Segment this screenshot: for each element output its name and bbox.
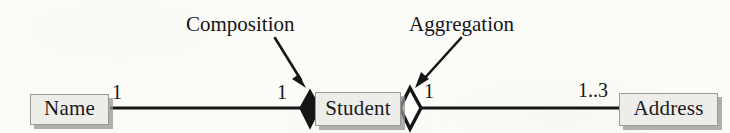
class-box-student-label: Student	[325, 98, 391, 121]
multiplicity-label-student-right: 1	[424, 81, 434, 101]
uml-diagram-canvas: Name Student Address Composition Aggrega…	[0, 0, 730, 133]
multiplicity-label-student-left: 1	[277, 82, 287, 102]
class-box-address-label: Address	[633, 98, 703, 121]
multiplicity-label-address-side: 1..3	[578, 80, 608, 100]
class-box-name-label: Name	[44, 98, 95, 121]
class-box-address[interactable]: Address	[619, 93, 718, 126]
multiplicity-label-name-side: 1	[112, 82, 122, 102]
annotation-label-composition: Composition	[186, 14, 295, 35]
hollow-diamond-aggregation-icon	[400, 88, 421, 129]
aggregation-annotation-arrow	[415, 38, 461, 88]
class-box-name[interactable]: Name	[30, 94, 109, 125]
class-box-student[interactable]: Student	[315, 92, 401, 126]
annotation-label-aggregation: Aggregation	[409, 14, 514, 35]
